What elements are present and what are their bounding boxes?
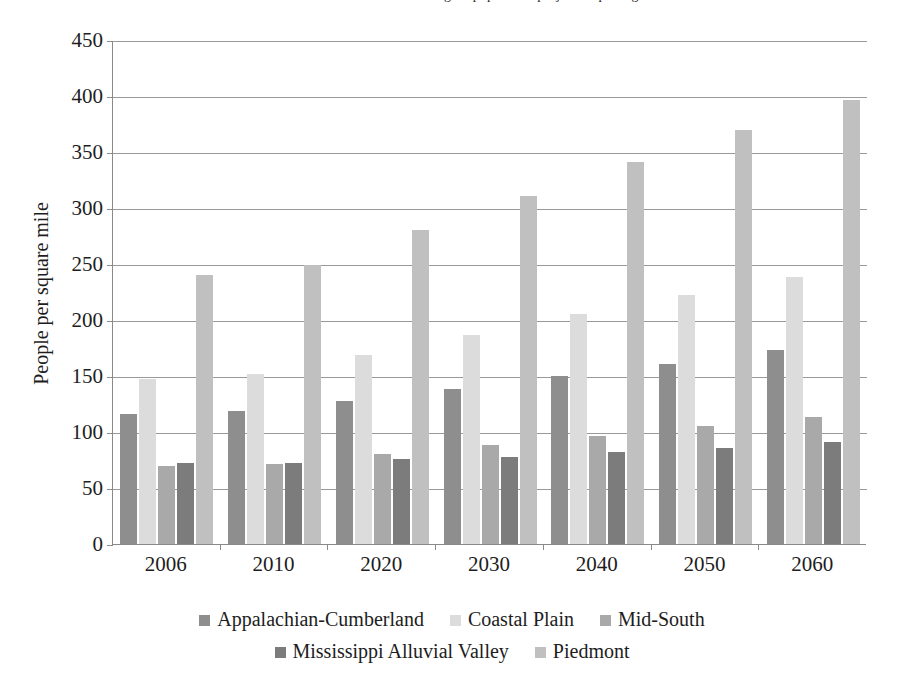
bar — [735, 130, 752, 544]
x-axis-tick-label: 2060 — [758, 552, 866, 577]
bar-group — [328, 40, 436, 544]
bar — [463, 335, 480, 544]
x-axis-tickmark — [435, 544, 436, 550]
bar — [228, 411, 245, 544]
legend-row-top: Appalachian-CumberlandCoastal PlainMid-S… — [0, 608, 904, 631]
bar — [482, 445, 499, 544]
bar — [659, 364, 676, 544]
bar — [336, 401, 353, 544]
bar — [824, 442, 841, 544]
bar — [139, 379, 156, 544]
legend-swatch-icon — [600, 615, 611, 626]
legend-item: Mid-South — [600, 608, 705, 631]
bar — [266, 464, 283, 544]
x-axis-tick-label: 2040 — [543, 552, 651, 577]
y-axis-tick-label: 400 — [72, 86, 104, 107]
bar — [805, 417, 822, 544]
bar — [589, 436, 606, 544]
y-axis-tick-label: 150 — [72, 366, 104, 387]
x-axis-tick-label: 2020 — [327, 552, 435, 577]
bar — [444, 389, 461, 544]
y-axis-tickmark — [107, 545, 113, 546]
legend-label: Coastal Plain — [468, 608, 574, 631]
y-axis-title-label: People per square mile — [30, 202, 53, 385]
bar — [196, 275, 213, 544]
legend-item: Piedmont — [535, 640, 630, 663]
bar — [551, 376, 568, 544]
bar — [355, 355, 372, 544]
x-axis-tickmark — [651, 544, 652, 550]
legend-label: Mississippi Alluvial Valley — [293, 640, 509, 663]
bar-group — [544, 40, 652, 544]
x-axis-tickmark — [327, 544, 328, 550]
bar — [570, 314, 587, 544]
legend-label: Piedmont — [553, 640, 630, 663]
legend-swatch-icon — [535, 647, 546, 658]
y-axis-tick-label: 100 — [72, 422, 104, 443]
bar — [716, 448, 733, 544]
legend-swatch-icon — [450, 615, 461, 626]
bar — [120, 414, 137, 544]
legend-swatch-icon — [275, 647, 286, 658]
bar — [374, 454, 391, 544]
bar — [520, 196, 537, 544]
x-axis-tick-label: 2050 — [651, 552, 759, 577]
y-axis-tick-label: 300 — [72, 198, 104, 219]
y-axis-tick-label: 0 — [93, 534, 104, 555]
bar — [678, 295, 695, 544]
y-axis-tick-label: 200 — [72, 310, 104, 331]
bar — [285, 463, 302, 544]
bar-group — [221, 40, 329, 544]
bar — [412, 230, 429, 544]
bar — [177, 463, 194, 544]
x-axis-tick-label: 2010 — [220, 552, 328, 577]
y-axis-tick-label: 50 — [82, 478, 103, 499]
x-axis-tick-labels: 2006201020202030204020502060 — [112, 552, 866, 577]
x-axis-tickmark — [758, 544, 759, 550]
bar — [767, 350, 784, 544]
bar — [247, 374, 264, 544]
bar — [304, 265, 321, 544]
bar-group — [113, 40, 221, 544]
bar-groups — [113, 40, 867, 544]
x-axis-tick-label: 2030 — [435, 552, 543, 577]
legend-item: Appalachian-Cumberland — [199, 608, 424, 631]
bar — [786, 277, 803, 544]
legend-label: Appalachian-Cumberland — [217, 608, 424, 631]
bar — [393, 459, 410, 544]
plot-area: 050100150200250300350400450 — [112, 41, 866, 545]
legend-item: Mississippi Alluvial Valley — [275, 640, 509, 663]
x-axis-tickmark — [220, 544, 221, 550]
bar-group — [759, 40, 867, 544]
bar — [158, 466, 175, 544]
bar-group — [652, 40, 760, 544]
legend-swatch-icon — [199, 615, 210, 626]
bar — [501, 457, 518, 544]
chart-legend: Appalachian-CumberlandCoastal PlainMid-S… — [0, 608, 904, 672]
legend-row-bottom: Mississippi Alluvial ValleyPiedmont — [0, 640, 904, 663]
x-axis-tick-label: 2006 — [112, 552, 220, 577]
legend-label: Mid-South — [618, 608, 705, 631]
bar — [608, 452, 625, 544]
bar-chart-figure: People per square mile 05010015020025030… — [0, 0, 904, 693]
y-axis-title: People per square mile — [28, 41, 54, 545]
bar — [697, 426, 714, 544]
y-axis-tick-label: 350 — [72, 142, 104, 163]
x-axis-tickmark — [543, 544, 544, 550]
y-axis-tick-label: 250 — [72, 254, 104, 275]
bar — [627, 162, 644, 544]
bar — [843, 100, 860, 544]
y-axis-tick-label: 450 — [72, 30, 104, 51]
bar-group — [436, 40, 544, 544]
legend-item: Coastal Plain — [450, 608, 574, 631]
